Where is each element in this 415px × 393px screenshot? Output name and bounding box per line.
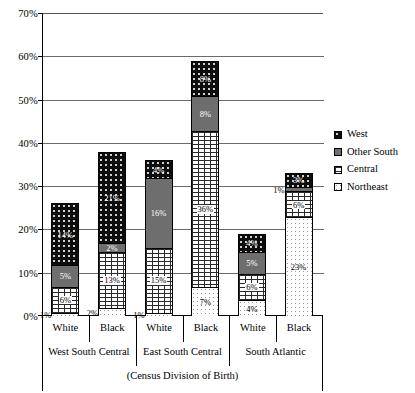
bar-segment-label: 23% bbox=[291, 263, 307, 272]
y-tick-label: 30% bbox=[18, 181, 38, 192]
bar-segment-label: 6% bbox=[292, 201, 305, 210]
bar-segment-west[interactable]: 21% bbox=[99, 153, 125, 244]
y-tick-label: 20% bbox=[18, 224, 38, 235]
bar-segment-label: 2% bbox=[87, 309, 98, 318]
bar-segment-other-south[interactable]: 5% bbox=[52, 265, 78, 287]
northeast-swatch-icon bbox=[334, 183, 342, 191]
bar-east-south-central-black[interactable]: 8%8%36%7% bbox=[191, 61, 219, 316]
central-swatch-icon bbox=[334, 166, 342, 174]
x-axis-category-label: Black bbox=[89, 322, 136, 333]
bar-east-south-central-white[interactable]: 4%16%15%1% bbox=[145, 160, 173, 316]
bar-segment-label: 8% bbox=[200, 110, 211, 119]
x-axis-category-label: White bbox=[42, 322, 89, 333]
bar-segment-northeast[interactable]: 7% bbox=[192, 287, 218, 317]
y-tick-label: 60% bbox=[18, 51, 38, 62]
bar-segment-west[interactable]: 3% bbox=[286, 174, 312, 187]
bar-segment-label: 15% bbox=[150, 276, 168, 285]
bar-south-atlantic-white[interactable]: 4%5%6%4% bbox=[238, 234, 266, 316]
legend-label: Central bbox=[347, 164, 378, 175]
x-axis-category-label: Black bbox=[276, 322, 322, 333]
bar-segment-label: 5% bbox=[246, 259, 257, 268]
bar-segment-label: 36% bbox=[197, 205, 215, 214]
legend-item-central[interactable]: Central bbox=[334, 164, 414, 175]
y-tick-label: 40% bbox=[18, 137, 38, 148]
legend-label: Other South bbox=[347, 147, 398, 158]
bar-segment-other-south[interactable]: 8% bbox=[192, 96, 218, 131]
bar-segment-central[interactable]: 6% bbox=[286, 191, 312, 217]
x-axis-separator bbox=[322, 342, 323, 366]
bar-segment-other-south[interactable]: 2% bbox=[99, 243, 125, 252]
bar-segment-label: 5% bbox=[60, 272, 71, 281]
bar-segment-northeast[interactable]: 4% bbox=[239, 300, 265, 317]
legend-label: West bbox=[347, 129, 368, 140]
bar-segment-west[interactable]: 8% bbox=[192, 62, 218, 97]
west-swatch-icon bbox=[334, 131, 342, 139]
bar-segment-label: 4% bbox=[246, 239, 257, 248]
bar-segment-label: 1% bbox=[273, 186, 284, 195]
chart-figure: 70% 60% 50% 40% 30% 20% 10% 0% 14%5%6%1%… bbox=[0, 0, 415, 393]
x-axis-group-label: South Atlantic bbox=[229, 346, 322, 357]
bar-segment-label: 16% bbox=[151, 209, 167, 218]
y-tick-label: 70% bbox=[18, 8, 38, 19]
y-tick-label: 50% bbox=[18, 94, 38, 105]
legend-item-west[interactable]: West bbox=[334, 129, 414, 140]
legend-label: Northeast bbox=[347, 182, 388, 193]
x-axis-category-label: Black bbox=[183, 322, 230, 333]
bar-segment-label: 3% bbox=[293, 176, 304, 185]
bar-segment-central[interactable]: 6% bbox=[239, 274, 265, 300]
bar-segment-label: 1% bbox=[133, 311, 144, 320]
bar-segment-other-south[interactable]: 5% bbox=[239, 252, 265, 274]
x-axis: White Black White Black White Black West… bbox=[42, 316, 323, 393]
x-axis-category-row: White Black White Black White Black bbox=[42, 316, 323, 342]
bar-segment-west[interactable]: 4% bbox=[239, 235, 265, 252]
legend-item-northeast[interactable]: Northeast bbox=[334, 182, 414, 193]
legend: West Other South Central Northeast bbox=[334, 129, 414, 199]
x-axis-category-label: White bbox=[229, 322, 276, 333]
bar-segment-label: 21% bbox=[104, 194, 120, 203]
bar-segment-label: 2% bbox=[106, 244, 117, 252]
bar-segment-label: 4% bbox=[246, 305, 257, 314]
bar-segment-other-south[interactable]: 16% bbox=[146, 178, 172, 247]
bar-segment-label: 6% bbox=[245, 283, 258, 292]
bar-south-atlantic-black[interactable]: 3%1%6%23% bbox=[285, 173, 313, 316]
bar-west-south-central-white[interactable]: 14%5%6%1% bbox=[51, 203, 79, 316]
bar-segment-label: 13% bbox=[103, 276, 121, 285]
y-axis-labels: 70% 60% 50% 40% 30% 20% 10% 0% bbox=[0, 13, 38, 316]
y-tick-label: 10% bbox=[18, 267, 38, 278]
x-axis-group-row: West South Central East South Central So… bbox=[42, 342, 323, 366]
bar-segment-label: 1% bbox=[40, 311, 51, 320]
bar-segment-label: 14% bbox=[58, 231, 74, 240]
bar-west-south-central-black[interactable]: 21%2%13%2% bbox=[98, 152, 126, 316]
bar-segment-central[interactable]: 36% bbox=[192, 131, 218, 287]
bar-segment-label: 7% bbox=[200, 298, 211, 307]
legend-item-other-south[interactable]: Other South bbox=[334, 147, 414, 158]
bar-segment-label: 6% bbox=[59, 296, 72, 305]
other-south-swatch-icon bbox=[334, 148, 342, 156]
x-axis-separator bbox=[322, 316, 323, 342]
x-axis-caption: (Census Division of Birth) bbox=[42, 370, 323, 381]
y-tick-label: 0% bbox=[24, 311, 38, 322]
bar-segment-label: 8% bbox=[200, 75, 211, 84]
bar-segment-central[interactable]: 15% bbox=[146, 248, 172, 313]
bar-series-container: 14%5%6%1%21%2%13%2%4%16%15%1%8%8%36%7%4%… bbox=[42, 13, 323, 316]
x-axis-group-label: East South Central bbox=[136, 346, 230, 357]
bar-segment-central[interactable]: 6% bbox=[52, 287, 78, 313]
x-axis-group-label: West South Central bbox=[42, 346, 136, 357]
bar-segment-central[interactable]: 13% bbox=[99, 252, 125, 308]
bar-segment-label: 4% bbox=[153, 166, 164, 175]
bar-segment-west[interactable]: 14% bbox=[52, 204, 78, 265]
x-axis-category-label: White bbox=[136, 322, 183, 333]
bar-segment-northeast[interactable]: 23% bbox=[286, 217, 312, 317]
bar-segment-west[interactable]: 4% bbox=[146, 161, 172, 178]
